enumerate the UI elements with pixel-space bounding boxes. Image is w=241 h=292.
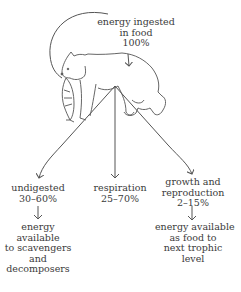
branch-percent: 2–15% (157, 198, 229, 209)
outcome-line: decomposers (3, 264, 73, 275)
ingestion-pointer (128, 54, 129, 66)
outcome-line: to scavengers (3, 243, 73, 254)
outcome-trophic-label: energy available as food to next trophic… (155, 222, 231, 264)
branch-title: undigested (3, 183, 73, 194)
outcome-scavengers-label: energy available to scavengers and decom… (3, 222, 73, 275)
outcome-line: level (155, 254, 231, 265)
branch-undigested-label: undigested 30–60% (3, 183, 73, 204)
branch-title: respiration (85, 183, 155, 194)
branch-arrows (39, 86, 192, 178)
source-label: energy ingested in food 100% (96, 17, 176, 49)
bear-illustration (61, 52, 166, 122)
source-line: energy ingested (96, 17, 176, 28)
outcome-line: energy available (155, 222, 231, 233)
outcome-line: next trophic (155, 243, 231, 254)
branch-title: growth and (157, 177, 229, 188)
branch-percent: 30–60% (3, 194, 73, 205)
branch-growth-label: growth and reproduction 2–15% (157, 177, 229, 209)
branch-percent: 25–70% (85, 194, 155, 205)
source-percent: 100% (96, 38, 176, 49)
outcome-line: energy (3, 222, 73, 233)
branch-respiration-label: respiration 25–70% (85, 183, 155, 204)
